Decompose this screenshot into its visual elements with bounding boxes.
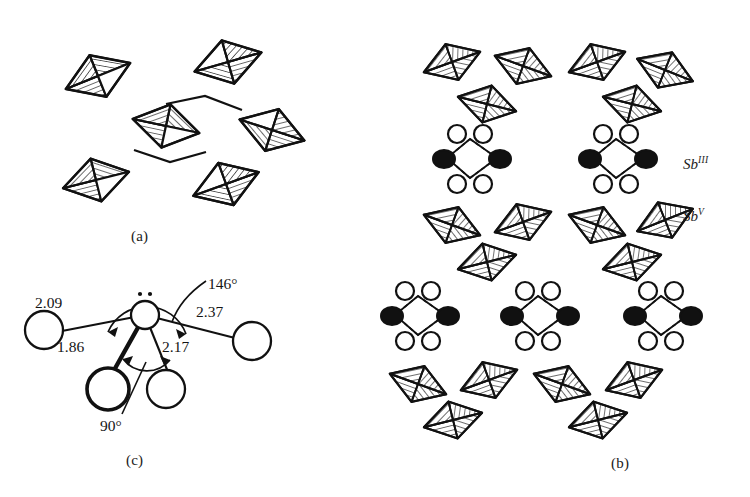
octahedron bbox=[383, 356, 452, 412]
oxygen-atom bbox=[448, 125, 466, 143]
oxygen-atom bbox=[516, 282, 534, 300]
octahedron bbox=[488, 194, 557, 250]
bond-length-left: 2.09 bbox=[35, 294, 62, 312]
sb3-cluster bbox=[579, 125, 657, 193]
antimony-atom bbox=[579, 150, 601, 168]
octahedron bbox=[58, 150, 135, 209]
bond-length-bottom-right: 2.17 bbox=[162, 338, 189, 356]
octahedron bbox=[57, 42, 138, 110]
oxygen-atom bbox=[422, 282, 440, 300]
ligand-atom-bottom-right bbox=[147, 370, 185, 408]
central-antimony-atom bbox=[131, 301, 159, 329]
bond-length-bottom-left: 1.86 bbox=[57, 338, 84, 356]
octahedron bbox=[598, 236, 665, 287]
oxygen-atom bbox=[665, 332, 683, 350]
antimony-atom bbox=[437, 307, 459, 325]
sb3-cluster bbox=[624, 282, 702, 350]
oxygen-atom bbox=[474, 175, 492, 193]
oxygen-atom bbox=[594, 175, 612, 193]
lone-pair-icon bbox=[138, 292, 152, 296]
label-sb-five-oxidation: V bbox=[698, 207, 704, 217]
label-sb-three-element: Sb bbox=[683, 156, 698, 172]
panel-caption-c: (c) bbox=[126, 452, 143, 469]
antimony-atom bbox=[557, 307, 579, 325]
octahedron bbox=[188, 31, 267, 93]
ligand-atom-bottom-left bbox=[87, 368, 129, 410]
panel-caption-b: (b) bbox=[611, 455, 629, 472]
antimony-atom bbox=[433, 150, 455, 168]
oxygen-atom bbox=[516, 332, 534, 350]
oxygen-atom bbox=[639, 332, 657, 350]
bond-length-right: 2.37 bbox=[196, 303, 223, 321]
label-sb-five: SbV bbox=[683, 207, 704, 225]
octahedron bbox=[454, 352, 523, 408]
antimony-atom bbox=[381, 307, 403, 325]
ligand-atom-right bbox=[233, 322, 271, 360]
oxygen-atom bbox=[542, 332, 560, 350]
octahedron bbox=[453, 78, 520, 129]
label-sb-three: SbIII bbox=[683, 155, 708, 173]
antimony-atom bbox=[624, 307, 646, 325]
antimony-atom bbox=[501, 307, 523, 325]
octahedron bbox=[186, 151, 267, 217]
octahedron bbox=[419, 394, 486, 445]
octahedron bbox=[417, 197, 486, 253]
panel-caption-a: (a) bbox=[131, 228, 148, 245]
oxygen-atom bbox=[396, 282, 414, 300]
antimony-atom bbox=[635, 150, 657, 168]
oxygen-atom bbox=[665, 282, 683, 300]
label-sb-five-element: Sb bbox=[683, 208, 698, 224]
oxygen-atom bbox=[620, 125, 638, 143]
oxygen-atom bbox=[620, 175, 638, 193]
oxygen-atom bbox=[422, 332, 440, 350]
octahedron bbox=[562, 197, 631, 253]
panel-a-structure bbox=[57, 31, 311, 217]
oxygen-atom bbox=[594, 125, 612, 143]
antimony-atom bbox=[489, 150, 511, 168]
octahedron bbox=[564, 394, 631, 445]
sb3-cluster bbox=[381, 282, 459, 350]
label-sb-three-oxidation: III bbox=[698, 155, 708, 165]
octahedron bbox=[128, 97, 204, 154]
panel-b-structure bbox=[381, 34, 702, 446]
antimony-atom bbox=[680, 307, 702, 325]
octahedron bbox=[527, 356, 596, 412]
octahedron bbox=[599, 352, 668, 408]
oxygen-atom bbox=[396, 332, 414, 350]
oxygen-atom bbox=[639, 282, 657, 300]
sb3-cluster bbox=[501, 282, 579, 350]
figure-root: SbIII SbV 2.09 2.37 1.86 2.17 146° 90° (… bbox=[0, 0, 750, 497]
octahedron bbox=[488, 38, 557, 94]
octahedron bbox=[233, 99, 311, 162]
angle-label-upper: 146° bbox=[208, 275, 237, 293]
angle-label-lower: 90° bbox=[100, 417, 122, 435]
oxygen-atom bbox=[474, 125, 492, 143]
octahedron bbox=[562, 34, 631, 90]
sb3-cluster bbox=[433, 125, 511, 193]
oxygen-atom bbox=[542, 282, 560, 300]
octahedron bbox=[417, 34, 486, 90]
octahedron bbox=[453, 236, 520, 287]
oxygen-atom bbox=[448, 175, 466, 193]
